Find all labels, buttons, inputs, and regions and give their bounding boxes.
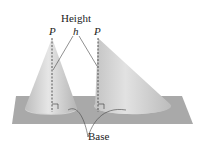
h-label: h [73,26,79,37]
apex-p-right: P [94,26,101,37]
apex-p-left: P [49,26,56,37]
base-label: Base [88,131,109,142]
cones-diagram [0,0,204,146]
right-cone [25,38,77,115]
height-label: Height [61,13,91,24]
oblique-cone [94,38,171,114]
